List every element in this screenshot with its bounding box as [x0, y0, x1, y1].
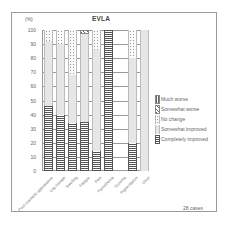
legend-swatch-sw: [155, 105, 160, 114]
y-tick-label: 40: [18, 112, 36, 118]
bar-segment-ci: [92, 151, 101, 171]
y-tick-label: 30: [18, 126, 36, 132]
bar-segment-ci: [128, 143, 137, 171]
legend: Much worseSomewhat worseNo changeSomewha…: [155, 95, 225, 145]
bar-segment-si: [68, 75, 77, 123]
legend-item: Completely improved: [155, 135, 225, 145]
legend-swatch-nc: [155, 115, 160, 124]
bar-segment-ci: [56, 115, 65, 171]
y-axis-unit: (%): [25, 16, 33, 22]
bar-segment-ci: [68, 123, 77, 171]
legend-item: Much worse: [155, 95, 225, 105]
y-tick-label: 100: [18, 27, 36, 33]
y-tick-label: 0: [18, 168, 36, 174]
bar-segment-nc: [56, 30, 65, 44]
bar-segment-si: [56, 44, 65, 115]
bar-segment-nc: [44, 30, 53, 41]
bar-eczema: [116, 30, 125, 171]
bar-segment-nc: [92, 30, 101, 50]
bar-paresthesia: [104, 30, 113, 171]
bar-segment-ci: [104, 30, 113, 171]
bar-segment-nc: [128, 30, 137, 58]
plot-area: [42, 30, 149, 171]
y-tick-label: 50: [18, 98, 36, 104]
bar-pigmentation: [128, 30, 137, 171]
y-tick-label: 10: [18, 154, 36, 160]
bar-segment-si: [80, 34, 89, 121]
legend-label: Somewhat improved: [161, 126, 207, 132]
legend-swatch-mw: [155, 95, 160, 104]
bar-pain: [92, 30, 101, 171]
bar-segment-ci: [80, 122, 89, 171]
bar-poor-cosmetic-appearance: [44, 30, 53, 171]
y-tick-label: 60: [18, 83, 36, 89]
legend-item: Somewhat improved: [155, 125, 225, 135]
legend-label: Completely improved: [161, 136, 208, 142]
legend-item: Somewhat worse: [155, 105, 225, 115]
bar-segment-nc: [68, 30, 77, 75]
legend-label: Much worse: [161, 96, 188, 102]
bar-segment-si: [140, 30, 149, 171]
y-tick-label: 90: [18, 41, 36, 47]
legend-swatch-ci: [155, 135, 160, 144]
y-tick-label: 20: [18, 140, 36, 146]
legend-label: Somewhat worse: [161, 106, 199, 112]
legend-label: No change: [161, 116, 185, 122]
bar-fatigue: [80, 30, 89, 171]
y-tick-label: 70: [18, 69, 36, 75]
bar-segment-si: [128, 58, 137, 143]
bar-segment-si: [92, 50, 101, 152]
bar-ulcer: [140, 30, 149, 171]
legend-swatch-si: [155, 125, 160, 134]
bar-segment-ci: [44, 106, 53, 171]
chart-title: EVLA: [92, 15, 110, 22]
legend-item: No change: [155, 115, 225, 125]
y-tick-label: 80: [18, 55, 36, 61]
bar-leg-cramps: [56, 30, 65, 171]
bar-segment-sw: [80, 30, 89, 34]
bar-segment-si: [44, 41, 53, 106]
bar-swelling: [68, 30, 77, 171]
case-count: 28 cases: [183, 205, 203, 211]
